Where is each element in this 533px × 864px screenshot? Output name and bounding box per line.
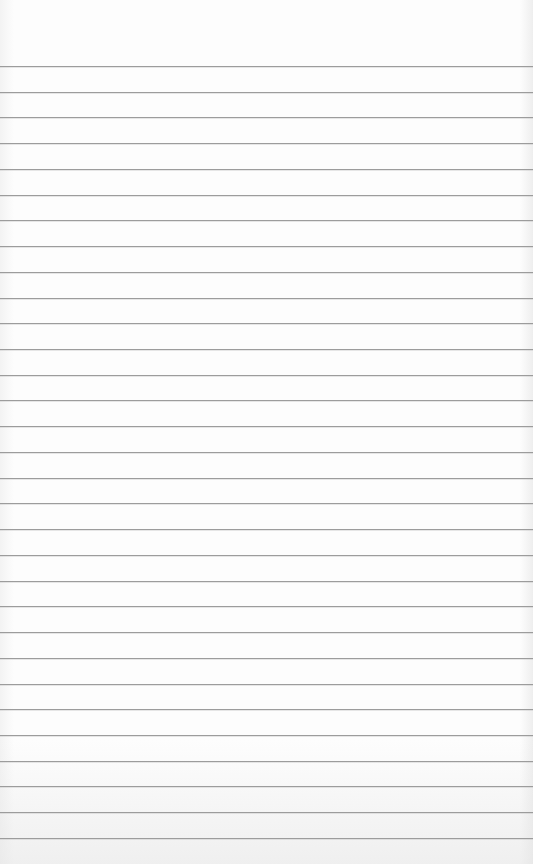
ruled-line [0,478,533,479]
ruled-line [0,117,533,118]
ruled-line [0,709,533,710]
ruled-line [0,812,533,813]
ruled-line [0,246,533,247]
ruled-line [0,735,533,736]
ruled-line [0,298,533,299]
ruled-line [0,684,533,685]
ruled-line [0,838,533,839]
ruled-line [0,143,533,144]
ruled-line [0,195,533,196]
ruled-line [0,529,533,530]
ruled-line [0,400,533,401]
ruled-line [0,169,533,170]
ruled-line [0,452,533,453]
ruled-line [0,92,533,93]
ruled-line [0,606,533,607]
ruled-line [0,503,533,504]
ruled-line [0,323,533,324]
ruled-line [0,786,533,787]
ruled-paper-sheet [0,0,533,864]
ruled-line [0,272,533,273]
ruled-line [0,349,533,350]
ruled-line [0,658,533,659]
ruled-line [0,375,533,376]
ruled-line [0,632,533,633]
ruled-line [0,220,533,221]
ruled-line [0,555,533,556]
ruled-line [0,426,533,427]
ruled-line [0,761,533,762]
ruled-line [0,581,533,582]
ruled-line [0,66,533,67]
